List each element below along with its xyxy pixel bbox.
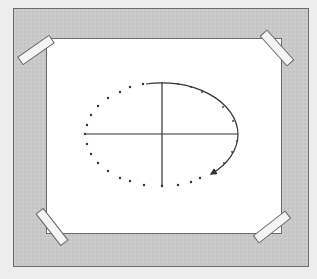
paper-sheet xyxy=(47,39,282,234)
taped-paper-diagram xyxy=(0,0,317,279)
diagram-canvas xyxy=(0,0,317,279)
